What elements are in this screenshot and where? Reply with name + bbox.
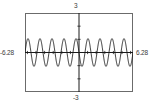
plot-canvas bbox=[25, 13, 133, 92]
function-graph-widget: 3 -3 -6.28 6.28 bbox=[0, 0, 162, 105]
y-max-label: 3 bbox=[74, 2, 77, 9]
y-min-label: -3 bbox=[73, 94, 78, 101]
x-min-label: -6.28 bbox=[0, 49, 14, 56]
x-max-label: 6.28 bbox=[136, 49, 148, 56]
